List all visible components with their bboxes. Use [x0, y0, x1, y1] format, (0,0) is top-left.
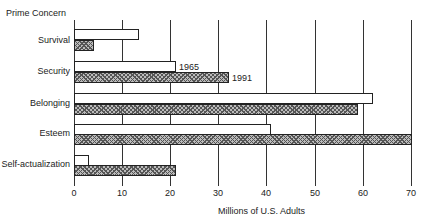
- bar-security-1991: [74, 72, 229, 83]
- tick-label: 10: [112, 188, 132, 198]
- legend-label-1965: 1965: [179, 62, 199, 72]
- tick-label: 0: [64, 188, 84, 198]
- y-axis-title: Prime Concern: [6, 8, 66, 18]
- category-label-self-actualization: Self-actualization: [1, 159, 70, 169]
- legend-label-1991: 1991: [232, 73, 252, 83]
- x-axis-label: Millions of U.S. Adults: [218, 206, 305, 216]
- category-label-esteem: Esteem: [39, 128, 70, 138]
- bar-esteem-1991: [74, 134, 412, 145]
- tick-label: 60: [353, 188, 373, 198]
- category-label-survival: Survival: [38, 35, 70, 45]
- tick-label: 50: [305, 188, 325, 198]
- bar-security-1965: [74, 61, 176, 72]
- category-label-belonging: Belonging: [30, 98, 70, 108]
- bar-belonging-1965: [74, 93, 373, 104]
- bar-survival-1991: [74, 40, 94, 51]
- tick-label: 30: [208, 188, 228, 198]
- gridline-70: [411, 20, 412, 186]
- bar-survival-1965: [74, 29, 139, 40]
- bar-belonging-1991: [74, 104, 358, 115]
- category-label-security: Security: [37, 66, 70, 76]
- tick-label: 40: [256, 188, 276, 198]
- bar-self-actualization-1991: [74, 165, 176, 176]
- tick-label: 20: [160, 188, 180, 198]
- tick-label: 70: [401, 188, 421, 198]
